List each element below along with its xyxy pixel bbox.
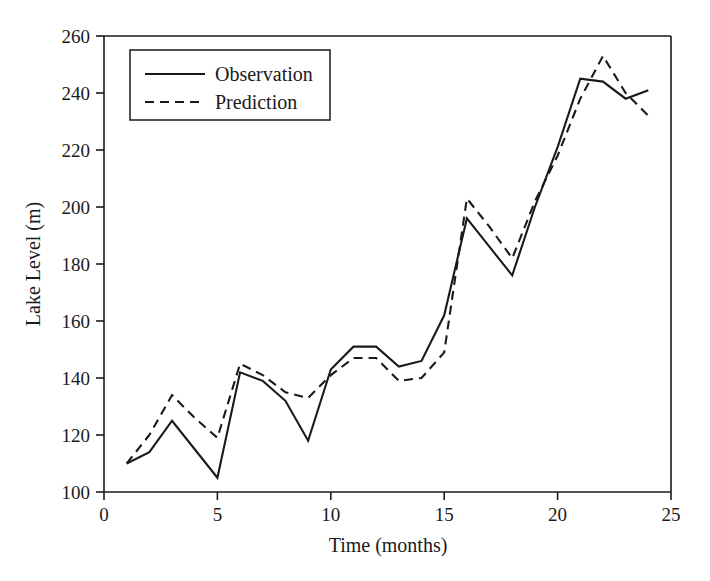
x-axis-ticks: 0510152025	[99, 492, 680, 525]
x-tick-label: 25	[662, 504, 681, 525]
line-chart-figure: 100120140160180200220240260 0510152025 T…	[0, 0, 710, 581]
series-line-observation	[127, 79, 649, 478]
x-tick-label: 15	[435, 504, 454, 525]
x-tick-label: 5	[213, 504, 223, 525]
legend: Observation Prediction	[130, 50, 330, 120]
y-tick-label: 120	[62, 425, 91, 446]
x-tick-label: 10	[321, 504, 340, 525]
x-axis-title: Time (months)	[329, 534, 448, 557]
y-tick-label: 240	[62, 83, 91, 104]
y-tick-label: 200	[62, 197, 91, 218]
y-axis-title: Lake Level (m)	[22, 202, 45, 326]
y-tick-label: 260	[62, 26, 91, 47]
x-tick-label: 0	[99, 504, 109, 525]
x-tick-label: 20	[548, 504, 567, 525]
chart-canvas: 100120140160180200220240260 0510152025 T…	[0, 0, 710, 581]
y-tick-label: 220	[62, 140, 91, 161]
y-tick-label: 160	[62, 311, 91, 332]
legend-label-observation: Observation	[215, 63, 313, 85]
y-tick-label: 180	[62, 254, 91, 275]
legend-label-prediction: Prediction	[215, 91, 297, 113]
y-axis-ticks: 100120140160180200220240260	[62, 26, 105, 503]
y-tick-label: 100	[62, 482, 91, 503]
y-tick-label: 140	[62, 368, 91, 389]
